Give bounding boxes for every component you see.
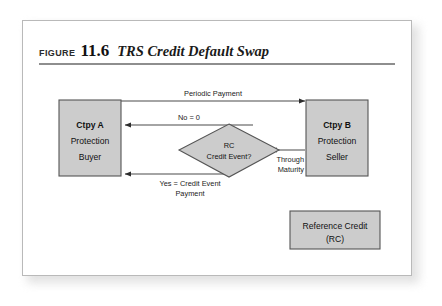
- edge-label-no-zero: No = 0: [178, 113, 200, 122]
- node-ctpy-b-line1: Ctpy B: [323, 120, 351, 130]
- node-ctpy-b-line2: Protection: [318, 136, 357, 146]
- node-ctpy-a-line1: Ctpy A: [76, 120, 103, 130]
- edge-no-zero: No = 0: [125, 113, 253, 125]
- edge-label-through-2: Maturity: [278, 165, 305, 174]
- node-decision-line1: RC: [224, 141, 235, 150]
- swap-flow-diagram: Periodic Payment No = 0 Through Maturity…: [23, 21, 413, 277]
- edge-periodic-payment: Periodic Payment: [121, 89, 305, 101]
- node-ctpy-a[interactable]: Ctpy A Protection Buyer: [59, 100, 121, 176]
- node-decision-line2: Credit Event?: [207, 152, 252, 161]
- node-reference-credit[interactable]: Reference Credit (RC): [290, 211, 380, 249]
- node-reference-credit-line2: (RC): [326, 234, 344, 244]
- node-credit-event-decision[interactable]: RC Credit Event?: [179, 124, 279, 177]
- node-ctpy-a-line2: Protection: [71, 136, 110, 146]
- edge-label-periodic-payment: Periodic Payment: [184, 89, 242, 98]
- figure-page: FIGURE11.6TRS Credit Default Swap Period…: [0, 0, 442, 306]
- edge-yes-credit-event: Yes = Credit Event Payment: [125, 174, 229, 198]
- node-ctpy-b-line3: Seller: [326, 152, 348, 162]
- edge-label-yes-credit-event-2: Payment: [175, 189, 204, 198]
- node-ctpy-b[interactable]: Ctpy B Protection Seller: [306, 100, 368, 176]
- node-reference-credit-line1: Reference Credit: [303, 221, 369, 231]
- edge-label-through-1: Through: [276, 155, 304, 164]
- node-ctpy-a-line3: Buyer: [79, 152, 102, 162]
- edge-label-yes-credit-event-1: Yes = Credit Event: [159, 179, 220, 188]
- figure-card: FIGURE11.6TRS Credit Default Swap Period…: [22, 20, 412, 276]
